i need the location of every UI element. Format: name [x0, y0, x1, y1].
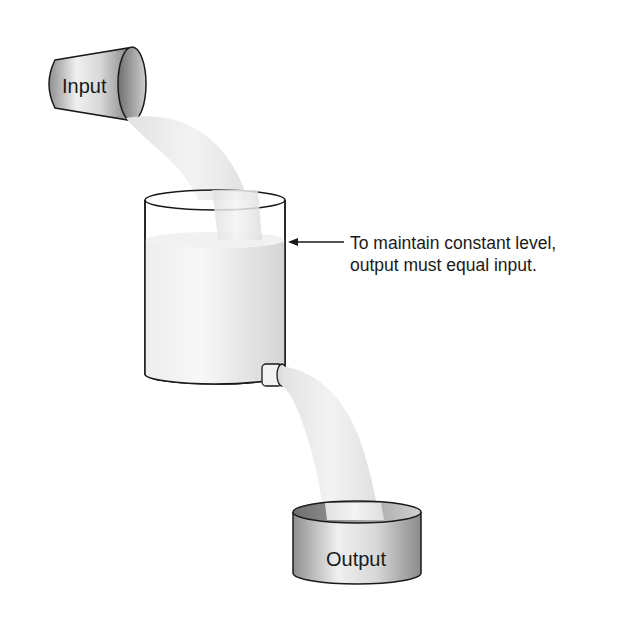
input-label: Input [62, 75, 107, 97]
output-label: Output [326, 548, 386, 570]
annotation-line-1: To maintain constant level, [350, 232, 556, 254]
input-bucket: Input [49, 47, 146, 121]
level-arrow [288, 238, 344, 246]
output-bucket: Output [293, 501, 421, 584]
tank [145, 190, 287, 386]
input-output-balance-diagram: Input Output [0, 0, 624, 629]
constant-level-annotation: To maintain constant level, output must … [350, 232, 556, 276]
annotation-line-2: output must equal input. [350, 254, 556, 276]
tank-liquid [145, 240, 285, 384]
